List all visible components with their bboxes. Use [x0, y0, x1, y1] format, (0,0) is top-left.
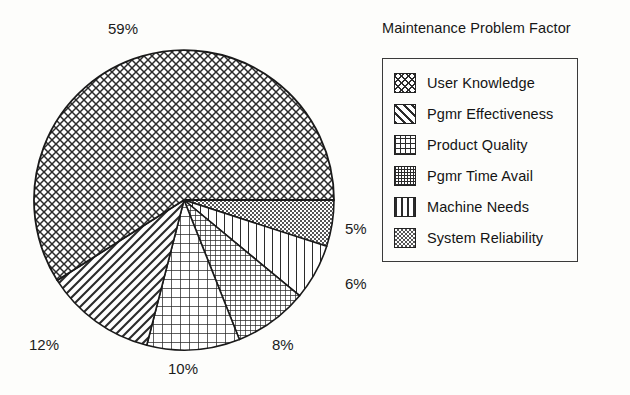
legend-title: Maintenance Problem Factor [382, 20, 571, 36]
legend-label: User Knowledge [427, 75, 535, 91]
legend-label: Pgmr Time Avail [427, 168, 533, 184]
legend-label: Product Quality [427, 137, 528, 153]
legend-box: User Knowledge Pgmr Effectiveness Produc… [382, 58, 578, 262]
pie-slices [34, 50, 334, 350]
legend-swatch-dense-checker-icon [394, 228, 416, 248]
legend-items: User Knowledge Pgmr Effectiveness Produc… [383, 59, 577, 261]
pie-label-product-quality: 10% [168, 360, 198, 377]
legend-item-system-reliability[interactable]: System Reliability [383, 222, 577, 253]
legend-swatch-vertical-lines-icon [394, 197, 416, 217]
pie-label-pgmr-time-avail: 8% [272, 336, 294, 353]
legend-item-pgmr-effectiveness[interactable]: Pgmr Effectiveness [383, 98, 577, 129]
legend-label: Machine Needs [427, 199, 529, 215]
pie-chart-figure: 59% 12% 10% 8% 5% 6% Maintenance Problem… [0, 0, 630, 395]
legend-item-product-quality[interactable]: Product Quality [383, 129, 577, 160]
legend-swatch-diagonal-crosshatch-icon [394, 73, 416, 93]
legend-swatch-dense-grid-icon [394, 166, 416, 186]
pie-label-machine-needs: 6% [345, 275, 367, 292]
legend-item-machine-needs[interactable]: Machine Needs [383, 191, 577, 222]
legend: Maintenance Problem Factor User Knowledg… [378, 14, 626, 274]
pie-label-system-reliability: 5% [345, 220, 367, 237]
legend-label: Pgmr Effectiveness [427, 106, 553, 122]
legend-swatch-grid-icon [394, 135, 416, 155]
pie-chart-area: 59% 12% 10% 8% [0, 0, 375, 395]
legend-item-pgmr-time-avail[interactable]: Pgmr Time Avail [383, 160, 577, 191]
legend-swatch-diagonal-lines-icon [394, 104, 416, 124]
legend-label: System Reliability [427, 230, 543, 246]
legend-item-user-knowledge[interactable]: User Knowledge [383, 67, 577, 98]
pie-label-pgmr-effectiveness: 12% [29, 336, 59, 353]
pie-label-user-knowledge: 59% [108, 20, 138, 37]
